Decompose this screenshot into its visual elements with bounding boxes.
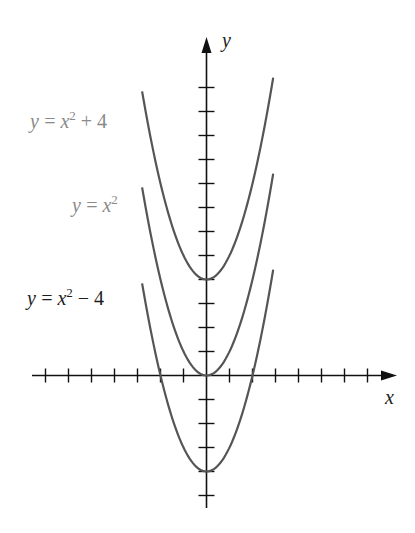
curve-1: [142, 174, 273, 376]
curves: [142, 78, 273, 472]
curve-0: [142, 78, 273, 280]
curve-labels: y = x2 + 4y = x2y = x2 − 4: [25, 108, 118, 310]
curve-2: [142, 270, 273, 472]
axes: [32, 37, 397, 508]
curve-label: y = x2 + 4: [28, 108, 107, 133]
y-axis-label: y: [220, 29, 231, 52]
chart-canvas: y = x2 + 4y = x2y = x2 − 4 x y: [0, 0, 415, 533]
x-axis-label: x: [384, 386, 394, 408]
y-axis-arrow-icon: [202, 37, 212, 53]
curve-label: y = x2 − 4: [25, 285, 104, 310]
x-axis-arrow-icon: [381, 371, 397, 381]
curve-label: y = x2: [70, 192, 118, 217]
